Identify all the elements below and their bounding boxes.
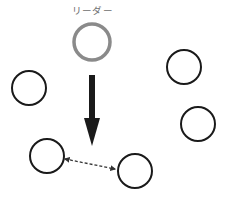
leader-circle	[74, 24, 110, 60]
team-diagram	[0, 0, 229, 199]
arrow-head	[84, 118, 100, 146]
member-circles	[12, 50, 215, 188]
member-bottom-right-circle	[118, 154, 152, 188]
arrow-shaft	[89, 75, 95, 119]
down-arrow-icon	[84, 75, 100, 146]
member-top-right-circle	[167, 50, 201, 84]
bidirectional-dashed-arrow	[65, 159, 115, 169]
member-right-circle	[181, 107, 215, 141]
member-left-circle	[12, 71, 46, 105]
member-bottom-left-circle	[30, 139, 64, 173]
